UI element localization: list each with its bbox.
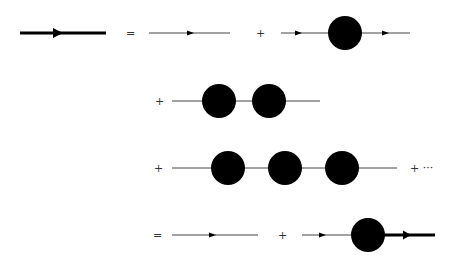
row-4: = + [153, 218, 435, 252]
free-propagator [172, 233, 258, 238]
row-2: + [155, 84, 320, 118]
self-energy-blob [252, 84, 286, 118]
plus-sign: + [155, 95, 164, 108]
equals-sign: = [126, 27, 135, 40]
equals-sign: = [153, 229, 162, 242]
self-energy-blob [211, 151, 245, 185]
two-blob-propagator [172, 84, 320, 118]
self-energy-blob [202, 84, 236, 118]
arrow-icon [209, 233, 216, 238]
full-propagator [20, 28, 106, 38]
plus-sign: + [278, 229, 287, 242]
self-energy-blob [351, 218, 385, 252]
arrow-icon [295, 31, 302, 36]
plus-ellipsis: + ··· [410, 162, 433, 175]
arrow-icon [319, 233, 326, 238]
row-1: = + [20, 16, 410, 50]
arrow-icon [403, 231, 411, 240]
row-3: + + ··· [154, 151, 433, 185]
plus-sign: + [256, 27, 265, 40]
self-energy-blob [325, 151, 359, 185]
arrow-icon [382, 31, 389, 36]
dyson-series-diagram: = + + + + ··· = [0, 0, 455, 266]
plus-sign: + [154, 162, 163, 175]
one-blob-propagator [281, 16, 410, 50]
arrow-icon [187, 31, 194, 36]
self-energy-blob [328, 16, 362, 50]
arrow-icon [53, 28, 63, 38]
dyson-equation-propagator [302, 218, 435, 252]
self-energy-blob [268, 151, 302, 185]
three-blob-propagator [172, 151, 397, 185]
free-propagator [149, 31, 230, 36]
